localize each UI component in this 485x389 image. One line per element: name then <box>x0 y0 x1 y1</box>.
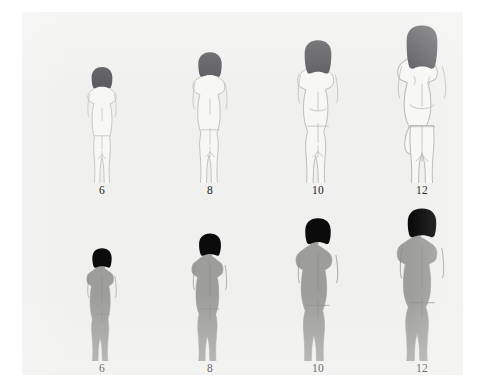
male-figure-6 <box>79 241 125 361</box>
figure-cell-male-6: 6 <box>54 241 150 375</box>
hair-short-bob <box>92 67 113 88</box>
male-figure-row: 6 <box>22 197 463 375</box>
age-label-female-8: 8 <box>162 184 258 197</box>
age-label-female-10: 10 <box>270 184 366 197</box>
female-figure-6 <box>78 65 126 183</box>
figure-cell-male-10: 10 <box>270 209 366 375</box>
female-figure-8 <box>183 50 237 183</box>
female-figure-row: 6 <box>22 12 463 197</box>
figure-root: 6 <box>0 0 485 389</box>
female-figure-10 <box>289 36 347 183</box>
age-label-female-6: 6 <box>54 184 150 197</box>
figure-cell-female-6: 6 <box>54 65 150 197</box>
figure-cell-female-12: 12 <box>374 23 470 197</box>
hair-short <box>408 208 437 237</box>
age-label-male-10: 10 <box>270 362 366 375</box>
hair-long <box>407 26 438 69</box>
figure-cell-female-10: 10 <box>270 36 366 197</box>
age-label-male-8: 8 <box>162 362 258 375</box>
age-label-male-12: 12 <box>374 362 470 375</box>
male-figure-10 <box>289 209 347 361</box>
male-figure-8 <box>184 225 236 361</box>
male-figure-12 <box>391 196 453 361</box>
hair-short <box>305 218 331 244</box>
hair-short-bob <box>198 52 221 77</box>
hair-medium-length <box>305 40 332 73</box>
figure-cell-male-8: 8 <box>162 225 258 375</box>
hair-short <box>199 234 221 256</box>
figure-panel: 6 <box>22 12 463 375</box>
figure-cell-male-12: 12 <box>374 196 470 375</box>
hair-short <box>92 248 111 268</box>
female-figure-12 <box>390 23 454 183</box>
age-label-male-6: 6 <box>54 362 150 375</box>
figure-cell-female-8: 8 <box>162 50 258 197</box>
